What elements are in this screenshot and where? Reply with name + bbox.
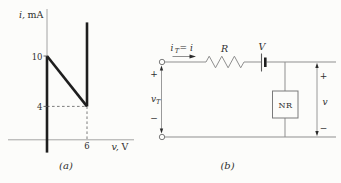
port-minus-sign: − xyxy=(150,113,158,123)
bottom-terminal xyxy=(159,134,164,139)
y-axis-label-unit: mA xyxy=(28,9,44,20)
battery-symbol xyxy=(262,54,266,72)
top-terminal xyxy=(159,59,164,64)
port-voltage-label-sub: T xyxy=(156,98,161,106)
x-axis-label-variable: v, xyxy=(112,141,119,152)
output-voltage-arrowhead-down-icon xyxy=(315,131,318,136)
figure: i, mA v, V 10 4 6 (a) R V NR xyxy=(0,0,341,183)
chart-curve-descending-branch xyxy=(47,56,87,106)
y-tick-label-4: 4 xyxy=(37,102,42,112)
port-voltage-label: v T xyxy=(151,94,161,107)
current-label: i T = i xyxy=(171,43,193,56)
resistor-symbol xyxy=(206,56,244,68)
y-axis-label-variable: i, xyxy=(19,9,25,20)
current-label-eq: = i xyxy=(180,43,193,53)
output-minus-sign: − xyxy=(320,123,328,133)
x-tick-label-6: 6 xyxy=(84,141,89,151)
output-voltage-arrow xyxy=(315,63,318,136)
output-voltage-label: v xyxy=(323,97,328,107)
current-arrowhead-icon xyxy=(190,55,197,59)
panel-b-caption: (b) xyxy=(220,160,234,171)
port-voltage-arrowhead-down-icon xyxy=(160,129,163,134)
output-plus-sign: + xyxy=(320,71,328,81)
y-tick-label-10: 10 xyxy=(32,52,43,62)
panel-a: i, mA v, V 10 4 6 (a) xyxy=(8,9,134,171)
port-plus-sign: + xyxy=(150,69,158,79)
x-axis-label-unit: V xyxy=(121,141,129,152)
nr-label: NR xyxy=(278,101,293,110)
battery-label: V xyxy=(259,41,267,52)
output-voltage-arrowhead-up-icon xyxy=(315,63,318,68)
panel-a-caption: (a) xyxy=(59,160,73,171)
resistor-label: R xyxy=(220,43,228,54)
chart-curve-layer xyxy=(44,22,88,152)
figure-canvas: i, mA v, V 10 4 6 (a) R V NR xyxy=(0,0,341,183)
port-voltage-arrowhead-up-icon xyxy=(160,66,163,71)
panel-b: R V NR i T = i + − v T xyxy=(150,41,336,171)
current-arrow xyxy=(173,55,197,59)
current-label-base: i xyxy=(171,43,174,53)
